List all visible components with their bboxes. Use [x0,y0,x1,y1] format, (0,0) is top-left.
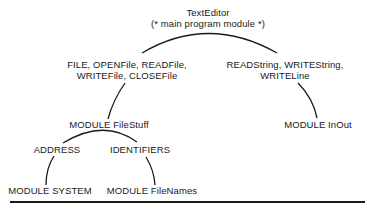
module-inout: MODULE InOut [284,119,352,130]
filestuff-arc [63,130,137,143]
connector-lines [0,0,367,209]
import-address: ADDRESS [34,144,81,155]
import-identifiers: IDENTIFIERS [110,144,170,155]
system-connector [46,156,54,185]
right-import-line2: WRITELine [260,70,309,81]
right-import-line1: READString, WRITEString, [227,59,344,70]
module-system: MODULE SYSTEM [8,185,92,196]
root-module-subtitle: (* main program module *) [151,18,265,29]
module-filenames: MODULE FileNames [107,185,197,196]
left-import-line2: WRITEFile, CLOSEFile [77,70,178,81]
left-import-line1: FILE, OPENFile, READFile, [67,59,187,70]
filenames-connector [146,157,155,185]
filestuff-connector [108,83,125,119]
module-filestuff: MODULE FileStuff [69,119,149,130]
root-arc [142,34,277,54]
root-module-title: TextEditor [186,7,229,18]
inout-connector [298,83,317,118]
